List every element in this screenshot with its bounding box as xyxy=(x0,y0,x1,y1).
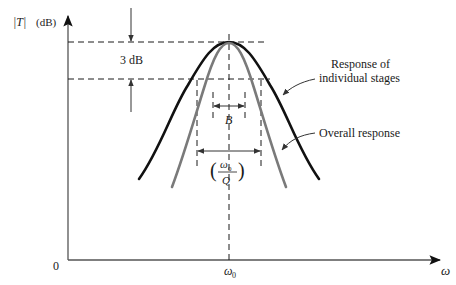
y-axis-label-unit: (dB) xyxy=(36,16,57,29)
svg-text:): ) xyxy=(238,159,245,182)
annotation-overall: Overall response xyxy=(319,126,400,140)
y-axis-label-magnitude: |T| xyxy=(13,15,26,29)
annotation-individual-line2: individual stages xyxy=(319,71,400,85)
svg-text:B: B xyxy=(225,113,233,127)
svg-text:0: 0 xyxy=(232,271,236,280)
individual-stages-pointer xyxy=(283,79,315,95)
svg-text:(: ( xyxy=(210,159,217,182)
svg-text:3 dB: 3 dB xyxy=(120,53,143,67)
svg-text:Q: Q xyxy=(222,174,230,186)
svg-text:ω: ω xyxy=(220,158,228,170)
origin-label: 0 xyxy=(53,259,59,273)
frequency-response-figure: |T| (dB) 0 ω ω 0 3 dB B ( ) ω 0 Q xyxy=(0,0,456,285)
annotation-individual-line1: Response of xyxy=(331,57,390,71)
three-db-indicator: 3 dB xyxy=(120,8,143,112)
x-axis-label: ω xyxy=(441,263,450,278)
center-frequency-label: ω 0 xyxy=(224,264,236,280)
